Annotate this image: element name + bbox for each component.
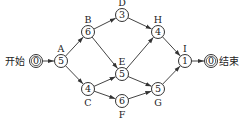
- edge-A-to-C: [66, 66, 84, 84]
- node-label: D: [118, 0, 126, 8]
- node-value: 4: [85, 83, 91, 94]
- edge-B-to-E: [92, 37, 118, 69]
- node-C: 4C: [82, 83, 95, 108]
- node-value: 0: [208, 55, 214, 66]
- node-value: 5: [155, 83, 161, 94]
- node-G: 5G: [152, 83, 165, 108]
- edge-H-to-I: [162, 37, 180, 56]
- node-start: 0: [30, 55, 43, 68]
- end-label: 结束: [219, 55, 239, 67]
- edge-F-to-G: [128, 91, 151, 99]
- node-F: 6F: [116, 95, 129, 120]
- edge-D-to-H: [128, 18, 152, 29]
- edge-G-to-I: [163, 66, 181, 84]
- nodes-layer: 05A6B4C3D5E6F4H5G1I0: [30, 0, 218, 120]
- edge-B-to-D: [94, 18, 116, 29]
- edge-A-to-B: [65, 37, 83, 56]
- node-label: A: [57, 43, 65, 54]
- node-label: E: [119, 56, 126, 67]
- node-I: 1I: [179, 43, 192, 68]
- node-A: 5A: [55, 43, 68, 68]
- node-label: H: [154, 14, 162, 25]
- node-value: 6: [119, 95, 125, 106]
- edge-E-to-H: [126, 37, 153, 69]
- activity-network-diagram: 05A6B4C3D5E6F4H5G1I0 开始 结束: [0, 0, 244, 123]
- node-value: 5: [119, 68, 125, 79]
- node-value: 0: [33, 55, 39, 66]
- edge-C-to-F: [94, 91, 115, 99]
- edge-C-to-E: [94, 77, 116, 87]
- node-value: 6: [85, 26, 91, 37]
- node-D: 3D: [116, 0, 129, 22]
- node-value: 5: [58, 55, 64, 66]
- node-label: I: [183, 43, 187, 54]
- start-label: 开始: [5, 55, 25, 67]
- node-label: F: [119, 109, 126, 120]
- node-value: 3: [119, 9, 125, 20]
- node-B: 6B: [82, 14, 95, 39]
- node-label: G: [154, 97, 162, 108]
- node-value: 1: [182, 55, 188, 66]
- edge-E-to-G: [128, 77, 152, 87]
- node-label: B: [85, 14, 92, 25]
- node-label: C: [84, 97, 91, 108]
- node-value: 4: [155, 26, 161, 37]
- node-H: 4H: [152, 14, 165, 39]
- node-end: 0: [205, 55, 218, 68]
